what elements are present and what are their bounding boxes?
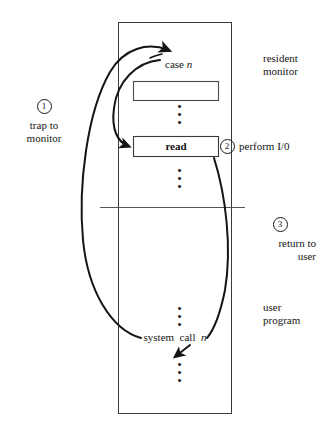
step-3-circle-number: 3	[273, 217, 288, 232]
step-1-marker: 1	[8, 99, 80, 114]
empty-routine-box	[134, 82, 219, 101]
return-to-user-curve	[207, 158, 228, 338]
step-2-marker: 2	[219, 139, 235, 154]
step-1-circle-number: 1	[37, 99, 52, 114]
dots-monitor-lower: • • •	[161, 167, 185, 199]
step-3-marker: 3	[244, 217, 316, 232]
dots-monitor-upper: • • •	[161, 103, 185, 135]
step-1-label: trap tomonitor	[8, 119, 80, 145]
step-2-circle-number: 2	[220, 139, 235, 154]
resume-execution-arrow	[176, 345, 190, 356]
system-call-diagram: residentmonitor userprogram 1 trap tomon…	[0, 0, 320, 436]
read-box-label: read	[133, 140, 219, 152]
region-label-user-program: userprogram	[263, 301, 319, 327]
system-call-n-variable: n	[201, 331, 207, 343]
trap-to-monitor-arrow	[82, 47, 168, 338]
case-label-leader	[150, 54, 162, 58]
case-n-label: case n	[165, 58, 235, 71]
case-n-variable: n	[187, 58, 193, 70]
case-dispatch-arrow	[113, 60, 160, 146]
dots-user-upper: • • •	[161, 305, 185, 337]
region-label-resident-monitor: residentmonitor	[263, 52, 319, 78]
step-3-label: return touser	[244, 237, 316, 263]
dots-user-lower: • • •	[161, 361, 185, 393]
step-2-label: perform I/0	[239, 140, 319, 153]
